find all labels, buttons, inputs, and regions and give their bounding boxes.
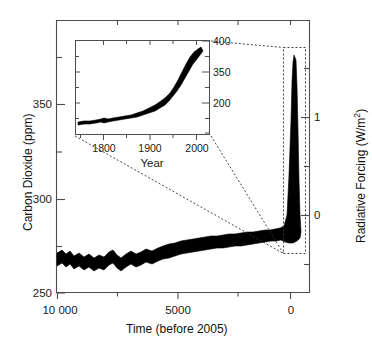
inset-x-axis-title: Year: [140, 157, 163, 169]
y-tick-label-350: 350: [33, 98, 52, 110]
inset-x-tick-label-2000: 2000: [185, 142, 208, 154]
inset-x-tick-label-1900: 1900: [138, 142, 161, 154]
inset-y-tick-label-350: 350: [213, 66, 231, 78]
y2-axis-title-close: ): [354, 109, 368, 113]
inset-panel: [75, 40, 210, 140]
inset-y-tick-label-400: 400: [213, 35, 231, 47]
x-tick-label-0: 0: [288, 304, 294, 316]
x-axis-title: Time (before 2005): [126, 322, 228, 336]
y2-tick-label-0: 0: [314, 209, 320, 221]
y2-axis-title: Radiative Forcing (W/m2): [352, 109, 368, 243]
inset-y-tick-label-300: 200: [213, 97, 231, 109]
y2-axis-title-exponent: 2: [352, 113, 362, 118]
y-tick-label-250: 250: [33, 287, 52, 299]
chart-canvas: [0, 0, 372, 342]
y2-tick-label-1: 1: [314, 111, 320, 123]
y-axis-title: Carbon Dioxide (ppm): [21, 114, 35, 231]
x-tick-label-5000: 5000: [165, 304, 191, 316]
y-tick-label-300: 300: [33, 193, 52, 205]
co2-radiative-forcing-figure: 350 300 250 1 0 10 000 5000 0 Carbon Dio…: [0, 0, 372, 342]
inset-x-tick-label-1800: 1800: [92, 142, 115, 154]
y2-axis-title-text: Radiative Forcing (W/m: [354, 118, 368, 243]
x-tick-label-10000: 10 000: [42, 304, 77, 316]
